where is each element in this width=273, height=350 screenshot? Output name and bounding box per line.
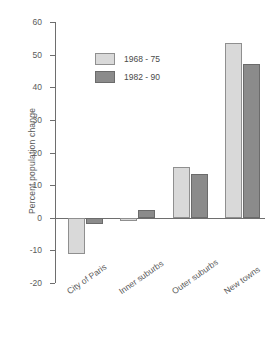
y-tick-label-60: 60	[33, 17, 42, 27]
bar-outer-suburbs-1968-75	[173, 167, 190, 218]
y-axis-line	[55, 22, 56, 283]
legend-swatch-1982-90	[95, 71, 115, 83]
bar-city-of-paris-1982-90	[86, 218, 103, 225]
y-tick-50: 50	[50, 55, 55, 56]
y-tick-label-0: 0	[37, 213, 42, 223]
bar-chart: Percent population change 6050403020100-…	[0, 0, 273, 350]
y-tick--20: -20	[50, 283, 55, 284]
plot-area: 6050403020100-10-20	[55, 22, 265, 283]
legend-swatch-1968-75	[95, 53, 115, 65]
y-tick-30: 30	[50, 120, 55, 121]
y-tick-60: 60	[50, 22, 55, 23]
bar-outer-suburbs-1982-90	[191, 174, 208, 218]
legend-label-1982-90: 1982 - 90	[124, 72, 160, 82]
y-tick-label-10: 10	[33, 180, 42, 190]
bar-inner-suburbs-1982-90	[138, 210, 155, 218]
y-tick-label-30: 30	[33, 115, 42, 125]
bar-new-towns-1968-75	[225, 43, 242, 218]
y-tick-0: 0	[50, 218, 55, 219]
y-tick-10: 10	[50, 185, 55, 186]
y-tick-label--20: -20	[30, 278, 42, 288]
y-tick-40: 40	[50, 87, 55, 88]
y-tick--10: -10	[50, 250, 55, 251]
bar-city-of-paris-1968-75	[68, 218, 85, 254]
legend-item-1982-90: 1982 - 90	[95, 70, 160, 84]
y-tick-label-40: 40	[33, 82, 42, 92]
legend: 1968 - 75 1982 - 90	[95, 52, 160, 88]
y-tick-20: 20	[50, 153, 55, 154]
legend-label-1968-75: 1968 - 75	[124, 54, 160, 64]
bar-new-towns-1982-90	[243, 64, 260, 217]
bar-inner-suburbs-1968-75	[120, 218, 137, 221]
y-tick-label--10: -10	[30, 245, 42, 255]
y-tick-label-50: 50	[33, 50, 42, 60]
legend-item-1968-75: 1968 - 75	[95, 52, 160, 66]
y-tick-label-20: 20	[33, 148, 42, 158]
